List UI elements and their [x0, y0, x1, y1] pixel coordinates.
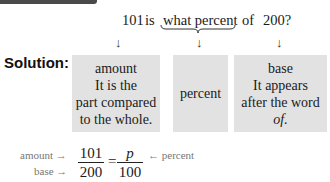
- amount-box-line: part compared: [76, 94, 156, 111]
- fraction-left-denominator: 200: [78, 163, 104, 181]
- amount-label: amount →: [20, 149, 67, 161]
- question-of: of: [242, 11, 254, 29]
- equals-sign: =: [108, 153, 116, 170]
- fraction-left-numerator: 101: [78, 144, 104, 163]
- base-box-italic-word: of.: [273, 111, 287, 128]
- base-label: base →: [34, 165, 67, 177]
- percent-box-title: percent: [180, 85, 221, 102]
- arrow-down-icon: ↓: [196, 36, 203, 49]
- amount-box-line: It is the: [95, 77, 137, 94]
- header-tab-bar: [0, 0, 97, 4]
- fraction-right: p 100: [117, 144, 143, 181]
- amount-box-line: to the whole.: [80, 111, 153, 128]
- arrow-down-icon: ↓: [115, 36, 122, 49]
- percent-label: ← percent: [148, 149, 194, 161]
- base-box: base It appears after the word of.: [234, 55, 327, 132]
- fraction-right-denominator: 100: [117, 163, 143, 181]
- base-box-line: It appears: [253, 77, 308, 94]
- question-base: 200?: [263, 11, 291, 29]
- amount-box: amount It is the part compared to the wh…: [72, 55, 160, 132]
- question-is: is: [145, 11, 155, 29]
- question-amount: 101: [122, 11, 144, 29]
- amount-box-title: amount: [95, 60, 137, 77]
- fraction-left: 101 200: [78, 144, 104, 181]
- fraction-right-numerator: p: [117, 144, 143, 163]
- underbrace-icon: [160, 24, 236, 34]
- percent-box: percent: [173, 55, 228, 132]
- base-box-title: base: [268, 60, 293, 77]
- base-box-line: after the word: [241, 94, 320, 111]
- solution-label: Solution:: [4, 54, 69, 71]
- arrow-down-icon: ↓: [276, 36, 283, 49]
